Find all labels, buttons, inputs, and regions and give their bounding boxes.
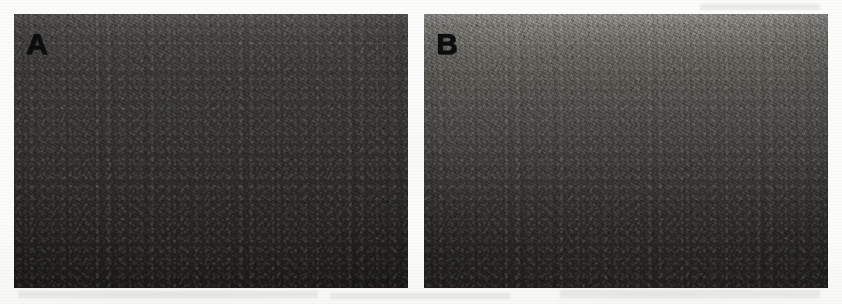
panel-b-label: B: [436, 29, 458, 59]
scan-smudge-center: [330, 293, 510, 299]
panel-b-gradient: [424, 14, 828, 288]
scan-smudge-right: [560, 290, 820, 298]
panel-a-label: A: [26, 29, 48, 59]
scan-smudge-top-right: [700, 4, 820, 10]
figure-container: A B: [0, 0, 842, 304]
micrograph-panel-b: B: [424, 14, 828, 288]
micrograph-panel-a: A: [14, 14, 408, 288]
scan-smudge-left: [18, 291, 318, 298]
panel-a-gradient: [14, 14, 408, 288]
